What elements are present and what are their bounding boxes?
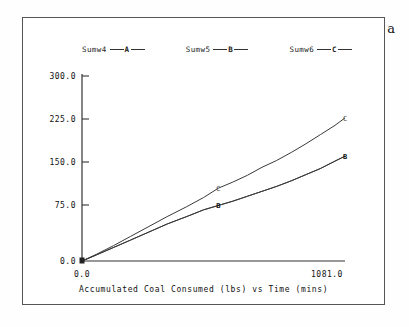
data-marker-b: B: [343, 153, 347, 161]
axis-lines: [82, 74, 345, 261]
series-markers: CBCB: [216, 115, 347, 211]
data-marker-c: C: [216, 185, 220, 193]
series-lines: [82, 118, 345, 261]
data-marker-c: C: [343, 115, 347, 123]
series-line-sumw6: [82, 118, 345, 261]
origin-square: [80, 258, 85, 264]
data-marker-b: B: [216, 202, 220, 210]
y-axis-ticks: [82, 76, 89, 205]
series-line-sumw4: [82, 156, 345, 261]
series-line-sumw5: [82, 156, 345, 261]
origin-marker: [80, 258, 85, 264]
chart-page: a Sumw4 A Sumw5 B Sumw6 C 300.0 225.0 15…: [0, 0, 409, 327]
chart-plot-area: CBCB: [0, 0, 409, 327]
